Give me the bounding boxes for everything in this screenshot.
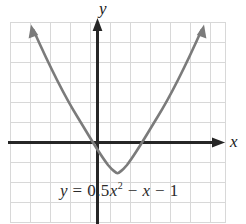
equation-annotation: y = 0.5x2 − x − 1 xyxy=(60,181,179,201)
y-axis-label: y xyxy=(99,0,107,17)
graph-figure: y x y = 0.5x2 − x − 1 xyxy=(0,0,246,224)
equation-minus-first: − xyxy=(128,181,138,200)
equation-minus-second: − xyxy=(155,181,165,200)
parabola-curve xyxy=(29,25,207,174)
x-axis-label: x xyxy=(230,133,238,150)
equation-constant: 1 xyxy=(170,181,179,200)
equation-lhs: y xyxy=(60,181,68,200)
equation-variable: x xyxy=(110,181,118,200)
x-axis xyxy=(8,138,225,148)
equation-equals: = xyxy=(73,181,83,200)
equation-coefficient: 0.5 xyxy=(87,181,109,200)
